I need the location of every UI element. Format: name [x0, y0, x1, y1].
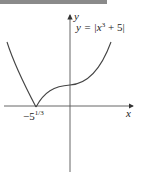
equation-label: y = |x3 + 5|: [75, 21, 125, 33]
curve-left-branch: [7, 42, 36, 107]
function-graph: y x y = |x3 + 5| −51/3: [0, 0, 142, 176]
curve-right-branch: [36, 42, 111, 107]
cusp-label: −51/3: [23, 109, 44, 122]
x-axis-label: x: [125, 107, 131, 119]
